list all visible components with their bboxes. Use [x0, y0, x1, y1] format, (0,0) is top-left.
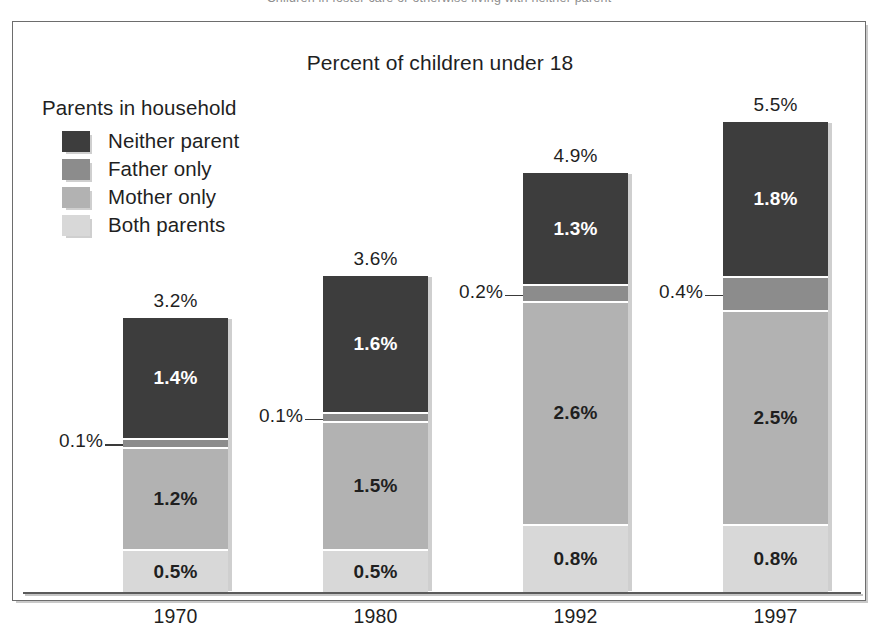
bar-segment-mother_only[interactable]: 2.5%	[723, 310, 828, 524]
bar-segment-mother_only[interactable]: 1.5%	[323, 421, 428, 549]
bar-segment-mother_only[interactable]: 1.2%	[123, 447, 228, 550]
x-tick-label-1980: 1980	[296, 605, 456, 628]
bar-segment-neither_parent[interactable]: 1.3%	[523, 173, 628, 284]
segment-value-callout: 0.2%	[431, 281, 503, 303]
bar-segment-neither_parent[interactable]: 1.6%	[323, 276, 428, 413]
x-tick-label-1970: 1970	[96, 605, 256, 628]
segment-value-label: 2.5%	[753, 407, 797, 429]
bar-segment-father_only[interactable]	[323, 412, 428, 421]
bar-total-label: 3.2%	[123, 290, 228, 312]
scan-cutoff-caption-strip: Children in foster care or otherwise liv…	[0, 0, 878, 13]
bar-segment-father_only[interactable]	[123, 438, 228, 447]
bar-total-label: 5.5%	[723, 94, 828, 116]
bar-stack: 1.8%2.5%0.8%	[723, 122, 828, 592]
bar-segment-neither_parent[interactable]: 1.8%	[723, 122, 828, 276]
bar-group-1992: 4.9%1.3%2.6%0.8%	[523, 173, 628, 592]
bar-group-1970: 3.2%1.4%1.2%0.5%	[123, 318, 228, 592]
segment-value-label: 0.5%	[353, 561, 397, 583]
callout-leader-line	[505, 295, 523, 297]
bar-group-1980: 3.6%1.6%1.5%0.5%	[323, 276, 428, 592]
bar-segment-neither_parent[interactable]: 1.4%	[123, 318, 228, 438]
axis-baseline	[23, 592, 861, 594]
bar-segment-mother_only[interactable]: 2.6%	[523, 301, 628, 523]
segment-value-label: 0.8%	[753, 548, 797, 570]
bar-total-label: 4.9%	[523, 145, 628, 167]
bar-group-1997: 5.5%1.8%2.5%0.8%	[723, 122, 828, 592]
bar-segment-father_only[interactable]	[523, 284, 628, 301]
bar-total-label: 3.6%	[323, 248, 428, 270]
axis-baseline-shadow	[25, 594, 863, 596]
bar-stack: 1.6%1.5%0.5%	[323, 276, 428, 592]
segment-value-label: 1.8%	[753, 188, 797, 210]
x-tick-label-1997: 1997	[696, 605, 856, 628]
bar-segment-father_only[interactable]	[723, 276, 828, 310]
segment-value-label: 1.2%	[153, 488, 197, 510]
callout-leader-line	[705, 295, 723, 297]
segment-value-label: 1.4%	[153, 367, 197, 389]
segment-value-label: 1.6%	[353, 333, 397, 355]
bar-segment-both_parents[interactable]: 0.5%	[123, 549, 228, 592]
plot-area: 0.1%3.2%1.4%1.2%0.5%0.1%3.6%1.6%1.5%0.5%…	[13, 22, 867, 602]
bar-stack: 1.3%2.6%0.8%	[523, 173, 628, 592]
scan-cutoff-caption: Children in foster care or otherwise liv…	[267, 0, 612, 5]
segment-value-label: 0.5%	[153, 561, 197, 583]
segment-value-label: 0.8%	[553, 548, 597, 570]
bar-segment-both_parents[interactable]: 0.5%	[323, 549, 428, 592]
segment-value-callout: 0.4%	[631, 281, 703, 303]
bar-stack: 1.4%1.2%0.5%	[123, 318, 228, 592]
figure-frame: Percent of children under 18 Parents in …	[12, 21, 866, 601]
bar-segment-both_parents[interactable]: 0.8%	[723, 524, 828, 592]
bar-segment-both_parents[interactable]: 0.8%	[523, 524, 628, 592]
callout-leader-line	[105, 444, 123, 446]
segment-value-label: 2.6%	[553, 402, 597, 424]
segment-value-callout: 0.1%	[231, 405, 303, 427]
segment-value-label: 1.3%	[553, 218, 597, 240]
segment-value-callout: 0.1%	[31, 430, 103, 452]
segment-value-label: 1.5%	[353, 475, 397, 497]
x-tick-label-1992: 1992	[496, 605, 656, 628]
callout-leader-line	[305, 419, 323, 421]
